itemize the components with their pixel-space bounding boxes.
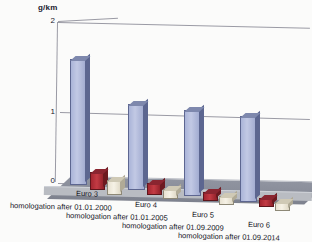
y-axis-tick-0: 0 bbox=[43, 176, 55, 185]
category-note-euro-6: homologation after 01.09.2014 bbox=[178, 231, 280, 242]
bar-co-euro-4[interactable] bbox=[128, 106, 143, 190]
y-axis-unit-label: g/km bbox=[38, 3, 57, 12]
bar-nox-euro-6[interactable] bbox=[275, 204, 288, 211]
bar-nox-euro-3[interactable] bbox=[107, 182, 120, 195]
bar-co-euro-5[interactable] bbox=[184, 112, 199, 196]
category-label-euro-6: Euro 6 bbox=[248, 220, 270, 230]
gridline-2 bbox=[58, 22, 310, 29]
category-label-euro-4: Euro 4 bbox=[135, 200, 157, 210]
bar-nox-euro-5[interactable] bbox=[219, 198, 232, 205]
category-label-euro-3: Euro 3 bbox=[76, 189, 98, 199]
y-axis-tick-2: 2 bbox=[43, 16, 55, 25]
category-label-euro-5: Euro 5 bbox=[192, 210, 214, 220]
bar-hc-euro-5[interactable] bbox=[203, 194, 216, 201]
emissions-bar-chart: g/km 2 1 0 CO 1.5 HC 0.2 NOx 0.15 bbox=[0, 0, 312, 242]
bar-co-euro-3[interactable] bbox=[70, 61, 85, 185]
y-axis-tick-1: 1 bbox=[43, 107, 55, 116]
bar-side bbox=[143, 99, 148, 187]
bar-side bbox=[199, 105, 204, 193]
bar-hc-euro-4[interactable] bbox=[147, 185, 160, 195]
y-axis-line bbox=[55, 22, 58, 182]
bar-nox-euro-4[interactable] bbox=[163, 191, 176, 199]
bar-co-euro-6[interactable] bbox=[240, 118, 255, 202]
bar-hc-euro-6[interactable] bbox=[259, 200, 272, 207]
bar-side bbox=[85, 54, 90, 182]
bar-side bbox=[255, 111, 260, 199]
bar-hc-euro-3[interactable] bbox=[90, 174, 103, 190]
